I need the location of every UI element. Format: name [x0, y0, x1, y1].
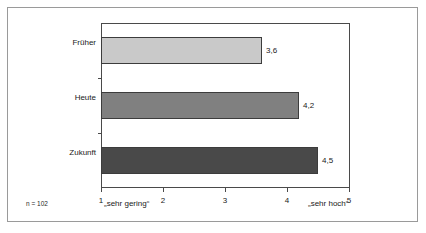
bar-value-label-zukunft: 4,5	[322, 156, 333, 166]
bar-zukunft: Zukunft	[101, 147, 318, 174]
x-axis-tick	[287, 188, 288, 192]
scale-anchor-low-label: „sehr gering“	[104, 199, 149, 209]
bar-value-label-frueher: 3,6	[266, 46, 277, 56]
bar-category-label: Heute	[75, 93, 96, 103]
bar-category-label: Früher	[72, 38, 96, 48]
y-axis-tick	[98, 133, 101, 134]
plot-frame-right-border	[349, 23, 350, 188]
plot-frame-top-border	[101, 23, 350, 24]
x-axis-tick-label: 3	[213, 196, 237, 206]
x-axis-tick-label: 4	[275, 196, 299, 206]
x-axis-tick	[349, 188, 350, 192]
x-axis-tick	[101, 188, 102, 192]
plot-area: 1 2 3 4 5 Früher 3,6 Heute 4,2 Zukunft 4…	[101, 23, 350, 188]
x-axis-tick	[163, 188, 164, 192]
scale-anchor-high-label: „sehr hoch“	[308, 199, 348, 209]
y-axis-tick	[98, 78, 101, 79]
bar-frueher: Früher	[101, 37, 262, 64]
x-axis-tick-label: 2	[151, 196, 175, 206]
bar-heute: Heute	[101, 92, 299, 119]
sample-size-note: n = 102	[26, 199, 48, 208]
x-axis-tick	[225, 188, 226, 192]
chart-figure: 1 2 3 4 5 Früher 3,6 Heute 4,2 Zukunft 4…	[7, 7, 418, 222]
bar-category-label: Zukunft	[69, 148, 96, 158]
bar-value-label-heute: 4,2	[303, 101, 314, 111]
